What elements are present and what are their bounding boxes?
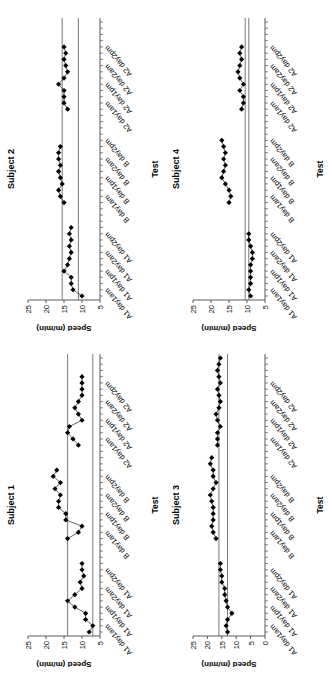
data-point-diamond-icon [239,57,244,62]
data-point-diamond-icon [211,511,216,516]
y-tick-label: 5 [261,305,270,309]
data-point-diamond-icon [67,256,72,261]
y-tick-label: 10 [243,305,252,313]
y-tick-label: 10 [232,641,241,649]
y-tick-label: 25 [189,641,198,649]
y-tick-label: 25 [24,641,33,649]
y-tick-label: 20 [203,641,212,649]
data-point-diamond-icon [219,175,224,180]
data-point-diamond-icon [56,169,61,174]
panel-subject-4: Subject 4510152025Speed (m/min)A1 day1am… [165,0,329,336]
y-tick-label: 15 [60,305,69,313]
data-point-diamond-icon [213,411,218,416]
y-axis-label: Speed (m/min) [201,324,256,333]
data-point-diamond-icon [216,393,221,398]
data-point-diamond-icon [67,231,72,236]
x-axis-label: Test [150,496,160,513]
series-line [64,228,82,297]
data-point-diamond-icon [56,150,61,155]
data-point-diamond-icon [70,287,75,292]
y-tick-label: 5 [96,305,105,309]
data-point-diamond-icon [209,499,214,504]
data-point-diamond-icon [239,107,244,112]
data-point-diamond-icon [65,262,70,267]
data-point-diamond-icon [211,467,216,472]
data-point-diamond-icon [246,287,251,292]
chart-title: Subject 1 [6,485,16,525]
chart-title: Subject 2 [6,149,16,189]
data-point-diamond-icon [208,461,213,466]
data-point-diamond-icon [225,617,230,622]
y-tick-label: 15 [60,641,69,649]
data-point-diamond-icon [225,604,230,609]
data-point-diamond-icon [208,492,213,497]
data-point-diamond-icon [79,293,84,298]
y-tick-label: 15 [218,641,227,649]
data-point-diamond-icon [76,399,81,404]
data-point-diamond-icon [246,237,251,242]
data-point-diamond-icon [237,51,242,56]
data-point-diamond-icon [79,380,84,385]
data-point-diamond-icon [250,250,255,255]
y-tick-label: 10 [78,641,87,649]
data-point-diamond-icon [79,524,84,529]
chart-title: Subject 4 [171,149,181,189]
data-point-diamond-icon [60,181,65,186]
y-axis-label: Speed (m/min) [36,324,91,333]
data-point-diamond-icon [209,524,214,529]
chart-title: Subject 3 [171,485,181,525]
data-point-diamond-icon [229,611,234,616]
y-tick-label: 25 [24,305,33,313]
data-point-diamond-icon [225,629,230,634]
data-point-diamond-icon [235,69,240,74]
data-point-diamond-icon [216,362,221,367]
data-point-diamond-icon [216,405,221,410]
y-tick-label: 5 [247,641,256,645]
data-point-diamond-icon [219,138,224,143]
data-point-diamond-icon [239,44,244,49]
x-axis-label: Test [150,160,160,177]
data-point-diamond-icon [237,63,242,68]
y-tick-label: 15 [225,305,234,313]
y-tick-label: 0 [261,641,270,645]
data-point-diamond-icon [63,63,68,68]
data-point-diamond-icon [56,188,61,193]
panel-subject-1: Subject 1510152025Speed (m/min)A1 day1am… [0,336,164,672]
y-tick-label: 5 [96,641,105,645]
data-point-diamond-icon [79,567,84,572]
data-point-diamond-icon [79,418,84,423]
data-point-diamond-icon [221,144,226,149]
data-point-diamond-icon [63,51,68,56]
series-line [68,377,82,446]
y-tick-label: 10 [78,305,87,313]
data-point-diamond-icon [226,200,231,205]
y-tick-label: 20 [42,305,51,313]
x-axis-label: Test [315,160,325,177]
data-point-diamond-icon [83,611,88,616]
data-point-diamond-icon [76,530,81,535]
data-point-diamond-icon [65,107,70,112]
data-point-diamond-icon [221,156,226,161]
data-point-diamond-icon [87,629,92,634]
data-point-diamond-icon [211,486,216,491]
data-point-diamond-icon [78,580,83,585]
y-axis-label: Speed (m/min) [201,660,256,669]
data-point-diamond-icon [222,586,227,591]
data-point-diamond-icon [79,561,84,566]
data-point-diamond-icon [69,225,74,230]
chart-subject-2: Subject 2510152025Speed (m/min)A1 day1am… [0,0,164,336]
data-point-diamond-icon [69,237,74,242]
data-point-diamond-icon [56,156,61,161]
data-point-diamond-icon [223,163,228,168]
data-point-diamond-icon [209,455,214,460]
data-point-diamond-icon [79,387,84,392]
data-point-diamond-icon [56,499,61,504]
data-point-diamond-icon [237,75,242,80]
data-point-diamond-icon [69,250,74,255]
data-point-diamond-icon [246,231,251,236]
data-point-diamond-icon [81,573,86,578]
y-axis-label: Speed (m/min) [36,660,91,669]
panel-subject-2: Subject 2510152025Speed (m/min)A1 day1am… [0,0,164,336]
data-point-diamond-icon [226,188,231,193]
data-point-diamond-icon [79,374,84,379]
